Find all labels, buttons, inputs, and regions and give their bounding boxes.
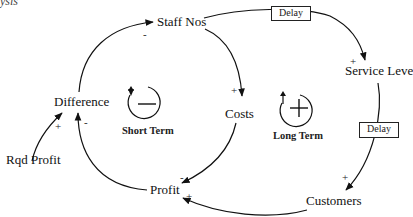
reinforcing-loop-icon	[280, 91, 312, 127]
polarity-customers-profit: +	[186, 191, 192, 202]
node-costs: Costs	[225, 107, 254, 121]
loop-label-short-term: Short Term	[122, 125, 174, 136]
delay-box-staff-service: Delay	[271, 6, 311, 21]
node-profit: Profit	[150, 183, 180, 197]
polarity-staff-service: +	[350, 56, 356, 67]
node-difference: Difference	[54, 95, 109, 109]
link-costs-profit	[182, 123, 236, 183]
polarity-costs-profit: -	[180, 172, 184, 183]
polarity-service-customers: +	[342, 172, 348, 183]
delay-box-service-customers: Delay	[359, 122, 399, 138]
polarity-profit-diff: -	[84, 117, 88, 128]
polarity-diff-staff: -	[143, 29, 147, 40]
polarity-rqd-diff: +	[55, 121, 61, 132]
loop-label-long-term: Long Term	[273, 130, 323, 141]
node-customers: Customers	[306, 194, 362, 208]
cropped-title-fragment: ysis	[0, 0, 18, 9]
link-difference-staff	[79, 22, 153, 92]
link-customers-profit	[183, 198, 307, 215]
polarity-staff-costs: +	[231, 85, 237, 96]
node-staff-nos: Staff Nos	[157, 15, 206, 29]
node-rqd-profit: Rqd Profit	[6, 153, 61, 167]
balancing-loop-icon	[128, 86, 160, 119]
